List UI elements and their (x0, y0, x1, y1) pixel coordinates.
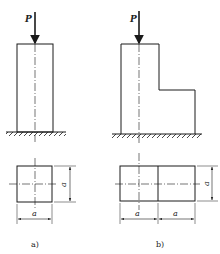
dim-label-height: a (202, 181, 211, 186)
ground-support-icon (112, 134, 202, 138)
load-label: P (129, 14, 137, 24)
caption-a: a) (31, 240, 39, 249)
figure-b: P a a a b) (112, 11, 218, 249)
figure-a: P a a a) (6, 12, 76, 249)
dim-label-width: a (32, 209, 37, 218)
stepped-column-elevation (121, 44, 195, 134)
dim-label-width-right: a (173, 209, 178, 218)
load-label: P (24, 14, 32, 24)
dim-label-height: a (59, 182, 68, 187)
dim-label-width-left: a (135, 209, 140, 218)
caption-b: b) (156, 240, 164, 249)
diagram-canvas: P a a a) P (0, 0, 220, 254)
ground-support-icon (6, 132, 66, 136)
